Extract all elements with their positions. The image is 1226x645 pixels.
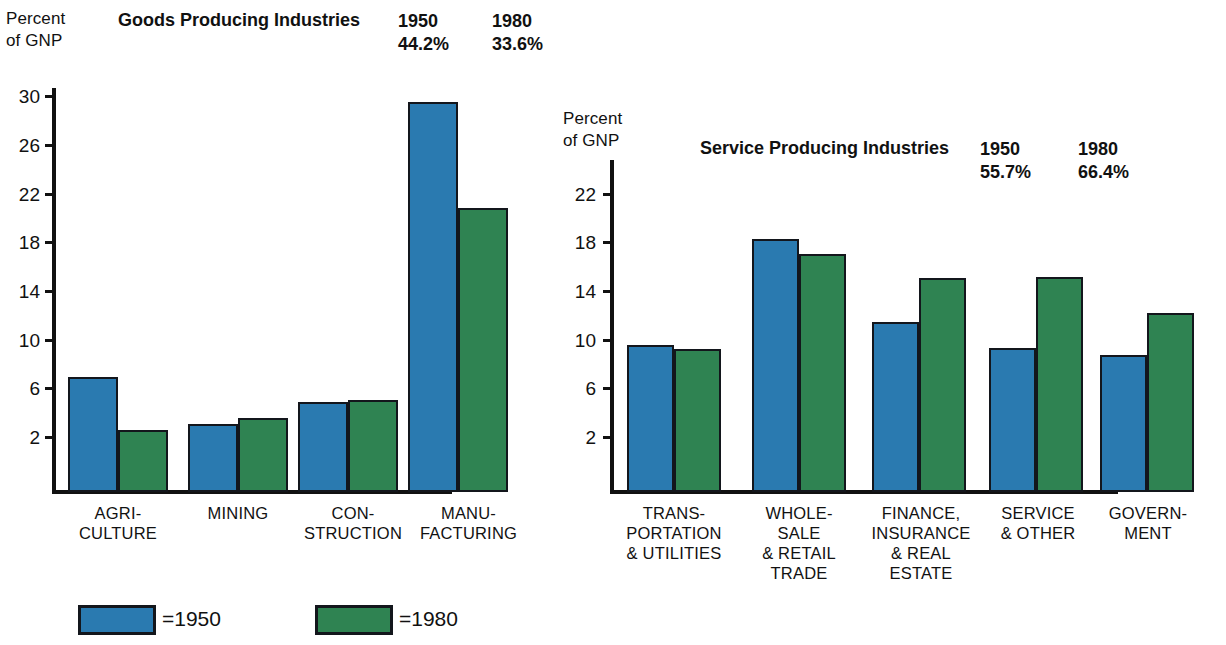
goods-tick-18 bbox=[45, 241, 55, 244]
service-tick-10 bbox=[603, 339, 613, 342]
bar-service-finance-1980 bbox=[919, 278, 966, 492]
goods-year-1980-label: 1980 bbox=[492, 11, 532, 31]
goods-panel-title: Goods Producing Industries bbox=[118, 10, 360, 31]
service-tick-2 bbox=[603, 436, 613, 439]
goods-tick-22 bbox=[45, 193, 55, 196]
goods-ticklabel-18: 18 bbox=[0, 233, 40, 252]
goods-category-label-mining: MINING bbox=[178, 503, 298, 523]
goods-axis-title: Percent of GNP bbox=[6, 8, 65, 52]
legend-swatch-1980 bbox=[315, 605, 393, 635]
service-share-1950-label: 55.7% bbox=[980, 162, 1031, 182]
goods-tick-10 bbox=[45, 339, 55, 342]
goods-ticklabel-6: 6 bbox=[0, 379, 40, 398]
goods-share-1980-label: 33.6% bbox=[492, 34, 543, 54]
goods-ticklabel-22: 22 bbox=[0, 185, 40, 204]
service-share-1980-label: 66.4% bbox=[1078, 162, 1129, 182]
bar-service-service-other-1980 bbox=[1036, 277, 1083, 492]
bar-service-finance-1950 bbox=[872, 322, 919, 492]
bar-goods-mining-1950 bbox=[188, 424, 238, 492]
goods-tick-2 bbox=[45, 436, 55, 439]
goods-category-label-manufacturing: MANU- FACTURING bbox=[406, 503, 531, 543]
goods-year-column-1980: 198033.6% bbox=[492, 10, 543, 56]
legend-label-1950: =1950 bbox=[162, 604, 221, 634]
service-ticklabel-14: 14 bbox=[556, 282, 596, 301]
bar-service-government-1980 bbox=[1147, 313, 1194, 492]
bar-goods-agriculture-1980 bbox=[118, 430, 168, 492]
goods-category-label-construction: CON- STRUCTION bbox=[288, 503, 418, 543]
bar-goods-manufacturing-1950 bbox=[408, 102, 458, 492]
service-year-1950-label: 1950 bbox=[980, 139, 1020, 159]
bar-service-transportation-1980 bbox=[674, 349, 721, 492]
service-tick-22 bbox=[603, 193, 613, 196]
goods-ticklabel-14: 14 bbox=[0, 282, 40, 301]
service-axis-title: Percent of GNP bbox=[563, 108, 622, 152]
goods-tick-26 bbox=[45, 144, 55, 147]
service-category-label-government: GOVERN- MENT bbox=[1092, 503, 1204, 543]
service-tick-6 bbox=[603, 387, 613, 390]
service-tick-18 bbox=[603, 241, 613, 244]
goods-ticklabel-26: 26 bbox=[0, 136, 40, 155]
service-ticklabel-18: 18 bbox=[556, 233, 596, 252]
goods-year-column-1950: 195044.2% bbox=[398, 10, 449, 56]
service-ticklabel-22: 22 bbox=[556, 185, 596, 204]
bar-goods-manufacturing-1980 bbox=[458, 208, 508, 492]
bar-goods-construction-1980 bbox=[348, 400, 398, 492]
goods-share-1950-label: 44.2% bbox=[398, 34, 449, 54]
bar-service-government-1950 bbox=[1100, 355, 1147, 492]
service-ticklabel-2: 2 bbox=[556, 428, 596, 447]
bar-service-service-other-1950 bbox=[989, 348, 1036, 492]
service-y-axis bbox=[610, 160, 614, 494]
legend-label-1980: =1980 bbox=[399, 604, 458, 634]
bar-service-wholesale-1980 bbox=[799, 254, 846, 492]
service-panel-title: Service Producing Industries bbox=[700, 138, 949, 159]
goods-category-label-agriculture: AGRI- CULTURE bbox=[58, 503, 178, 543]
service-category-label-finance: FINANCE, INSURANCE & REAL ESTATE bbox=[860, 503, 982, 583]
goods-ticklabel-10: 10 bbox=[0, 331, 40, 350]
bar-service-wholesale-1950 bbox=[752, 239, 799, 492]
service-tick-14 bbox=[603, 290, 613, 293]
goods-ticklabel-30: 30 bbox=[0, 87, 40, 106]
bar-goods-construction-1950 bbox=[298, 402, 348, 492]
goods-tick-30 bbox=[45, 95, 55, 98]
goods-tick-6 bbox=[45, 387, 55, 390]
goods-tick-14 bbox=[45, 290, 55, 293]
service-year-column-1980: 198066.4% bbox=[1078, 138, 1129, 184]
service-category-label-transportation: TRANS- PORTATION & UTILITIES bbox=[604, 503, 744, 563]
bar-goods-agriculture-1950 bbox=[68, 377, 118, 492]
service-category-label-wholesale: WHOLE- SALE & RETAIL TRADE bbox=[744, 503, 854, 583]
service-ticklabel-6: 6 bbox=[556, 379, 596, 398]
bar-service-transportation-1950 bbox=[627, 345, 674, 492]
service-year-column-1950: 195055.7% bbox=[980, 138, 1031, 184]
goods-ticklabel-2: 2 bbox=[0, 428, 40, 447]
bar-goods-mining-1980 bbox=[238, 418, 288, 492]
service-year-1980-label: 1980 bbox=[1078, 139, 1118, 159]
service-ticklabel-10: 10 bbox=[556, 331, 596, 350]
service-category-label-service-other: SERVICE & OTHER bbox=[984, 503, 1092, 543]
goods-year-1950-label: 1950 bbox=[398, 11, 438, 31]
legend-swatch-1950 bbox=[78, 605, 156, 635]
